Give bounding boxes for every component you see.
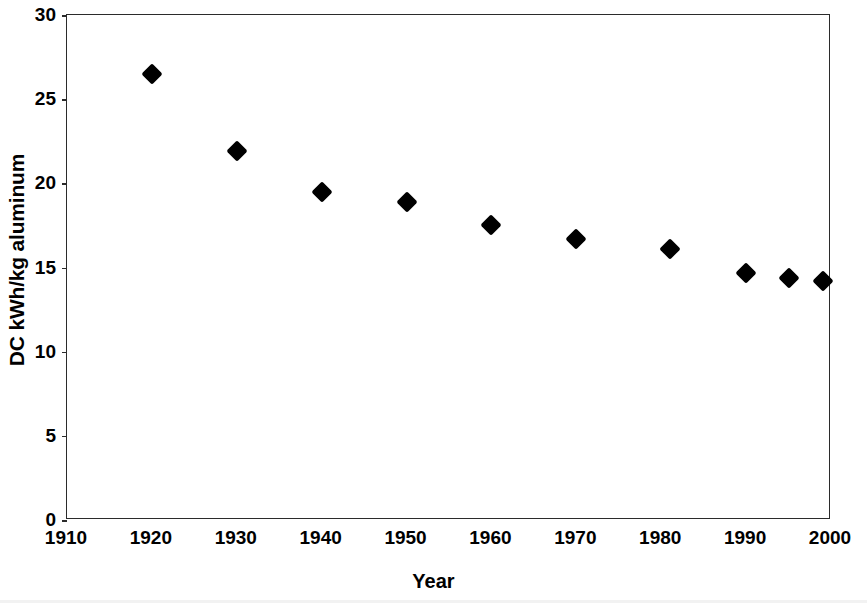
x-axis-tick-labels: 1910192019301940195019601970198019902000	[0, 528, 867, 556]
y-tick-label: 30	[26, 5, 56, 24]
y-tick-mark	[62, 268, 67, 270]
x-tick-label: 1910	[26, 528, 106, 547]
y-tick-label: 25	[26, 89, 56, 108]
x-tick-label: 1940	[281, 528, 361, 547]
data-point-marker	[659, 238, 680, 259]
x-tick-label: 1980	[620, 528, 700, 547]
data-point-marker	[141, 63, 162, 84]
data-point-marker	[566, 228, 587, 249]
y-tick-label: 20	[26, 173, 56, 192]
y-tick-mark	[62, 99, 67, 101]
data-point-marker	[778, 267, 799, 288]
y-tick-mark	[62, 520, 67, 522]
data-point-marker	[311, 181, 332, 202]
y-tick-mark	[62, 352, 67, 354]
x-tick-label: 1950	[366, 528, 446, 547]
data-point-marker	[812, 270, 833, 291]
y-tick-mark	[62, 183, 67, 185]
y-tick-mark	[62, 15, 67, 17]
y-tick-mark	[62, 436, 67, 438]
plot-area	[66, 14, 830, 519]
x-tick-label: 1960	[450, 528, 530, 547]
x-tick-label: 2000	[790, 528, 867, 547]
y-tick-label: 5	[26, 426, 56, 445]
x-tick-label: 1930	[196, 528, 276, 547]
y-tick-label: 15	[26, 258, 56, 277]
data-point-marker	[481, 215, 502, 236]
data-point-marker	[226, 141, 247, 162]
scan-artifact	[0, 600, 867, 603]
data-point-marker	[736, 262, 757, 283]
y-axis-tick-labels: 051015202530	[22, 0, 56, 607]
x-tick-label: 1920	[111, 528, 191, 547]
x-tick-label: 1990	[705, 528, 785, 547]
y-tick-label: 10	[26, 342, 56, 361]
x-axis-title: Year	[0, 570, 867, 593]
x-tick-label: 1970	[535, 528, 615, 547]
chart-figure: DC kWh/kg aluminum 051015202530 19101920…	[0, 0, 867, 607]
data-point-marker	[396, 191, 417, 212]
